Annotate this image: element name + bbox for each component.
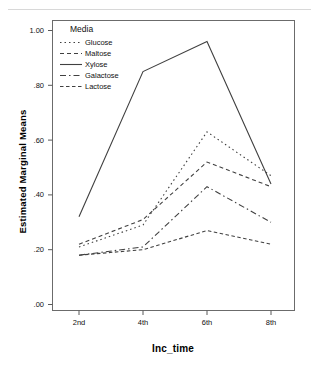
legend-key-lactose-icon [60, 82, 82, 91]
xtick-label-3: 6th [187, 318, 227, 327]
legend-item-lactose[interactable]: Lactose [60, 81, 156, 92]
legend: Media Glucose Maltose Xylose Galactose [60, 24, 156, 92]
line-chart-plot [0, 0, 319, 369]
ytick-label-6: .00 [14, 300, 44, 309]
ytick-label-2: .80 [14, 81, 44, 90]
xtick-label-4: 8th [251, 318, 291, 327]
legend-label-galactose: Galactose [85, 71, 119, 80]
xtick-label-1: 2nd [59, 318, 99, 327]
legend-item-glucose[interactable]: Glucose [60, 37, 156, 48]
legend-key-xylose-icon [60, 60, 82, 69]
legend-key-maltose-icon [60, 49, 82, 58]
y-axis-title: Estimated Marginal Means [17, 92, 28, 252]
legend-item-xylose[interactable]: Xylose [60, 59, 156, 70]
legend-key-galactose-icon [60, 71, 82, 80]
legend-key-glucose-icon [60, 38, 82, 47]
x-axis-ticks [79, 311, 271, 316]
legend-item-galactose[interactable]: Galactose [60, 70, 156, 81]
legend-title: Media [70, 24, 156, 34]
legend-item-maltose[interactable]: Maltose [60, 48, 156, 59]
xtick-label-2: 4th [123, 318, 163, 327]
y-axis-ticks [48, 31, 53, 305]
x-axis-title: Inc_time [52, 343, 294, 354]
legend-label-glucose: Glucose [85, 38, 113, 47]
legend-label-maltose: Maltose [85, 49, 111, 58]
chart-container: 1.00 .80 .60 .40 .20 .00 2nd 4th 6th 8th… [0, 0, 319, 369]
legend-label-xylose: Xylose [85, 60, 108, 69]
legend-label-lactose: Lactose [85, 82, 111, 91]
ytick-label-1: 1.00 [14, 26, 44, 35]
